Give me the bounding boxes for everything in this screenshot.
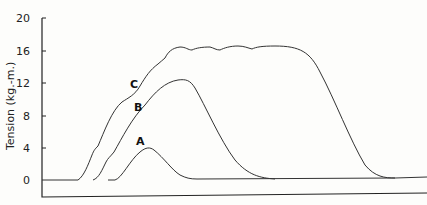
tick-12: 12 [16,77,30,90]
tick-4: 4 [23,142,30,155]
chart: 20 16 12 8 4 0 Tension (kg.-m.) C B A [0,0,427,205]
label-b: B [134,101,142,114]
baseline [42,177,427,180]
tick-8: 8 [23,110,30,123]
tick-20: 20 [16,12,30,25]
curve-c [78,46,395,180]
y-axis-label: Tension (kg.-m.) [4,62,17,151]
axes [42,18,427,197]
tick-0: 0 [23,174,30,187]
tick-16: 16 [16,45,30,58]
label-a: A [136,135,145,148]
label-c: C [130,78,138,91]
curve-b [93,80,275,180]
curve-a [108,148,197,180]
